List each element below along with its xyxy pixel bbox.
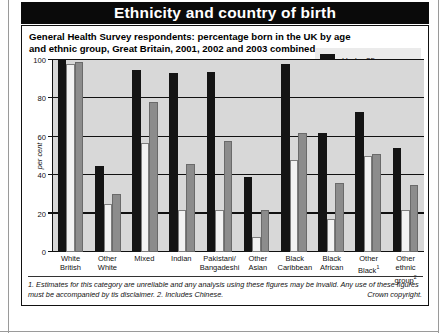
chart-plot-area: per cent 020406080100 [52, 60, 424, 252]
bar [178, 210, 187, 252]
y-tick-label-40: 40 [38, 171, 46, 180]
copyright-text: Crown copyright. [367, 290, 422, 299]
bar [410, 185, 419, 252]
bar [112, 194, 121, 252]
bar [318, 133, 327, 252]
bar [355, 112, 364, 252]
bar [95, 166, 104, 252]
bar [132, 70, 141, 252]
bar-group [52, 60, 89, 252]
y-tick-label-0: 0 [42, 248, 46, 257]
bar [393, 148, 402, 252]
bar-group [164, 60, 201, 252]
page-title: Ethnicity and country of birth [114, 4, 336, 22]
y-tick-label-100: 100 [33, 56, 46, 65]
bar [75, 62, 84, 252]
bar [261, 210, 270, 252]
bars-layer [52, 60, 424, 252]
bar [372, 154, 381, 252]
bar [298, 133, 307, 252]
bar-group [312, 60, 349, 252]
bar [401, 210, 410, 252]
bar [281, 64, 290, 252]
figure-page: Ethnicity and country of birth General H… [0, 0, 439, 333]
bar-group [238, 60, 275, 252]
bar [58, 60, 67, 252]
bar [207, 72, 216, 252]
bar [252, 237, 261, 252]
figure-card: General Health Survey respondents: perce… [21, 25, 429, 306]
bar [104, 204, 113, 252]
bar [327, 219, 336, 252]
bar-group [387, 60, 424, 252]
header-bar: Ethnicity and country of birth [21, 2, 429, 24]
bar [290, 160, 299, 252]
bar-group [89, 60, 126, 252]
frame-left-rule [8, 0, 9, 333]
figure-subtitle: General Health Survey respondents: perce… [29, 31, 359, 56]
bar-group [201, 60, 238, 252]
bar-group [126, 60, 163, 252]
bar [149, 102, 158, 252]
y-axis-title: per cent [35, 143, 44, 170]
bar [244, 177, 253, 252]
bar-group [350, 60, 387, 252]
bar [215, 210, 224, 252]
y-tick-label-80: 80 [38, 94, 46, 103]
bar [141, 143, 150, 252]
y-tick-label-60: 60 [38, 132, 46, 141]
frame-bottom-rule [0, 331, 439, 332]
bar [364, 156, 373, 252]
figure-footnote: 1. Estimates for this category are unrel… [28, 280, 423, 300]
bar [66, 64, 75, 252]
y-tick-label-20: 20 [38, 209, 46, 218]
bar-group [275, 60, 312, 252]
bar [224, 141, 233, 252]
bar [186, 164, 195, 252]
bar [335, 183, 344, 252]
bar [169, 73, 178, 252]
footnote-divider [28, 276, 423, 277]
